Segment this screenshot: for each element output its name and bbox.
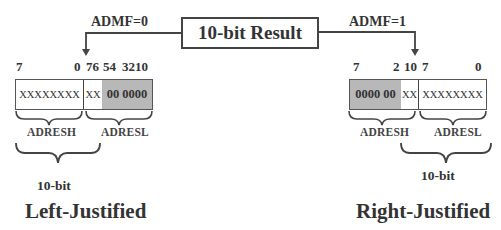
right-bit-l0: 0 — [475, 59, 482, 75]
right-adresh-xx: XX — [402, 89, 417, 100]
right-tenbit-brace — [401, 143, 491, 163]
right-bit-2: 2 — [393, 59, 400, 75]
left-adresl-label: ADRESL — [101, 126, 149, 138]
left-bit-0: 0 — [74, 59, 81, 75]
left-adresl-xx: XX — [85, 89, 100, 100]
right-adresl-cell: XXXXXXXX — [419, 80, 486, 109]
left-justified-title: Left-Justified — [25, 199, 146, 224]
left-adresh-brace — [16, 111, 82, 125]
right-adresl-brace — [420, 111, 486, 125]
right-adresl-label: ADRESL — [434, 126, 482, 138]
admf0-label: ADMF=0 — [91, 14, 148, 30]
right-arrow-line — [319, 32, 415, 50]
left-bit-3210: 3210 — [122, 59, 148, 75]
right-register: 0000 00 XX XXXXXXXX — [349, 79, 487, 110]
left-arrow-line — [86, 33, 181, 50]
left-bit-7: 7 — [16, 59, 23, 75]
right-arrow-head — [411, 49, 419, 56]
right-tenbit-label: 10-bit — [421, 168, 455, 184]
left-bit-54: 54 — [103, 59, 116, 75]
right-adresl-value: XXXXXXXX — [422, 89, 483, 100]
right-adresh-zero-cell: 0000 00 — [350, 80, 401, 109]
right-adresh-zeros: 0000 00 — [355, 87, 396, 102]
left-adresl-brace — [86, 111, 152, 125]
left-register: XXXXXXXX XX 00 0000 — [15, 79, 153, 110]
left-bit-76: 76 — [86, 59, 99, 75]
right-adresh-label: ADRESH — [360, 126, 409, 138]
left-adresh-value: XXXXXXXX — [19, 89, 80, 100]
right-bit-l7: 7 — [422, 59, 429, 75]
ten-bit-result-box: 10-bit Result — [181, 17, 319, 49]
left-adresl-zero-cell: 00 0000 — [102, 80, 152, 109]
left-adresl-xx-cell: XX — [84, 80, 102, 109]
right-bit-10: 10 — [404, 59, 417, 75]
result-label: 10-bit Result — [198, 22, 302, 44]
right-bit-7: 7 — [353, 59, 360, 75]
left-adresh-cell: XXXXXXXX — [16, 80, 84, 109]
right-adresh-xx-cell: XX — [401, 80, 419, 109]
left-adresh-label: ADRESH — [27, 126, 76, 138]
left-adresl-zeros: 00 0000 — [107, 87, 148, 102]
right-adresh-brace — [349, 111, 415, 125]
left-tenbit-brace — [16, 143, 100, 163]
right-justified-title: Right-Justified — [356, 199, 490, 224]
left-tenbit-label: 10-bit — [37, 178, 71, 194]
left-arrow-head — [82, 49, 90, 56]
admf1-label: ADMF=1 — [349, 14, 406, 30]
